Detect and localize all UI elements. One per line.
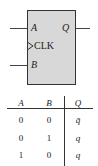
input-a-label: A bbox=[31, 23, 37, 33]
table-cell-q: q bbox=[71, 133, 85, 143]
table-header-q: Q bbox=[71, 98, 85, 108]
table-cell-b: 1 bbox=[42, 133, 56, 143]
table-cell-a: 1 bbox=[14, 150, 28, 160]
table-cell-a: 0 bbox=[14, 133, 28, 143]
table-cell-b: 0 bbox=[42, 115, 56, 125]
table-column-rule bbox=[64, 96, 65, 166]
table-cell-b: 0 bbox=[42, 150, 56, 160]
output-q-label: Q bbox=[62, 23, 69, 33]
table-header-a: A bbox=[14, 98, 28, 108]
input-a-wire bbox=[10, 28, 27, 29]
clock-label: CLK bbox=[34, 41, 54, 51]
table-header-rule bbox=[7, 108, 93, 109]
output-q-wire bbox=[75, 28, 90, 29]
table-cell-a: 0 bbox=[14, 115, 28, 125]
table-header-b: B bbox=[42, 98, 56, 108]
input-b-wire bbox=[10, 65, 27, 66]
input-b-label: B bbox=[31, 60, 37, 70]
table-cell-q: q bbox=[71, 150, 85, 160]
table-cell-q: q̄ bbox=[71, 115, 85, 125]
